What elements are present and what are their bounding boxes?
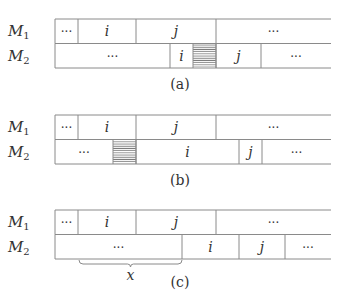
cell-label: j (171, 23, 179, 39)
cell-label: j (171, 119, 179, 135)
row-label-subscript: 2 (23, 246, 29, 257)
cell-label: j (257, 239, 265, 255)
memory-cell: i (78, 115, 109, 140)
panel-c: M1···ij···M2···ij···x(c) (7, 210, 331, 290)
memory-cell: ··· (55, 19, 72, 44)
panel-b: M1···ij···M2···ij···(b) (7, 115, 331, 188)
memory-cell: ··· (262, 140, 302, 165)
memory-cell: ··· (55, 235, 124, 260)
cell-label: i (208, 239, 212, 255)
memory-cell: j (136, 115, 179, 140)
panel-caption: (c) (171, 274, 190, 290)
row-label-m1: M1 (7, 118, 30, 137)
row-label-m2: M2 (7, 238, 30, 257)
memory-cell: ··· (216, 210, 279, 235)
cell-label: ··· (268, 216, 279, 230)
memory-cell: j (136, 19, 179, 44)
memory-cell: j (216, 44, 241, 69)
hatch-fill (193, 44, 216, 68)
cell-label: i (179, 48, 183, 64)
cell-label: ··· (107, 50, 118, 64)
memory-cell: ··· (55, 140, 90, 165)
cell-label: j (245, 144, 253, 160)
row-label-subscript: 1 (23, 221, 29, 232)
memory-cell: i (78, 210, 109, 235)
memory-cell: j (239, 235, 265, 260)
row-label-m2: M2 (7, 47, 30, 66)
memory-cell: i (78, 19, 109, 44)
row-label-subscript: 1 (23, 126, 29, 137)
cell-label: ··· (61, 216, 72, 230)
row-label-m1: M1 (7, 213, 30, 232)
row-label-m1: M1 (7, 22, 30, 41)
row-label-m2: M2 (7, 143, 30, 162)
cell-label: i (105, 119, 109, 135)
cell-label: ··· (290, 50, 301, 64)
panels-group: M1···ij···M2···ij···(a)M1···ij···M2···ij… (7, 19, 331, 290)
cell-label: ··· (291, 146, 302, 160)
cell-label: ··· (268, 121, 279, 135)
cell-label: i (105, 23, 109, 39)
row-label-subscript: 1 (23, 30, 29, 41)
memory-cell: ··· (261, 44, 302, 69)
memory-cell: ··· (216, 115, 279, 140)
cell-label: ··· (268, 25, 279, 39)
memory-cell: i (136, 140, 190, 165)
row-label-subscript: 2 (23, 55, 29, 66)
underbrace (79, 260, 182, 267)
memory-cell: j (136, 210, 179, 235)
cell-label: ··· (302, 241, 313, 255)
panel-a: M1···ij···M2···ij···(a) (7, 19, 331, 92)
hatched-gap-cell (113, 140, 136, 165)
panel-caption: (a) (170, 76, 189, 92)
memory-cell: i (170, 44, 184, 69)
memory-cell: ··· (285, 235, 314, 260)
cell-label: ··· (61, 121, 72, 135)
cell-label: ··· (78, 146, 89, 160)
hatched-gap-cell (193, 44, 216, 69)
cell-label: ··· (61, 25, 72, 39)
memory-cell: ··· (216, 19, 279, 44)
panel-caption: (b) (170, 172, 190, 188)
hatch-fill (113, 140, 136, 164)
row-label-subscript: 2 (23, 151, 29, 162)
cell-label: i (185, 144, 189, 160)
cell-label: j (171, 214, 179, 230)
cell-label: ··· (113, 241, 124, 255)
memory-cell: ··· (55, 44, 118, 69)
memory-cell: j (239, 140, 253, 165)
memory-cell: ··· (55, 115, 72, 140)
cell-label: i (105, 214, 109, 230)
memory-cell: i (182, 235, 213, 260)
brace-label: x (127, 267, 135, 283)
memory-cell: ··· (55, 210, 72, 235)
memory-layout-diagram: M1···ij···M2···ij···(a)M1···ij···M2···ij… (0, 0, 344, 306)
cell-label: j (233, 48, 241, 64)
